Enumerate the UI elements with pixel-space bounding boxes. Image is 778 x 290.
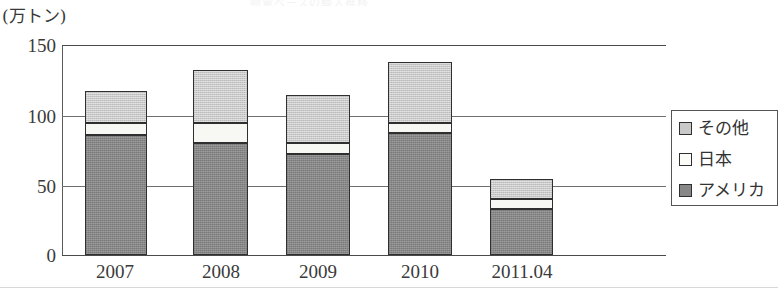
faint-title-strip: 物量ベースの輸入推移	[250, 0, 510, 6]
legend-label-america: アメリカ	[698, 181, 765, 199]
bar-segment-other-2010[interactable]	[388, 62, 452, 123]
bar-segment-other-2011-04[interactable]	[490, 179, 553, 199]
bar-segment-japan-2010[interactable]	[388, 123, 452, 133]
bar-segment-japan-2009[interactable]	[286, 143, 350, 154]
legend-label-japan: 日本	[698, 150, 732, 168]
bar-segment-america-2010[interactable]	[388, 133, 452, 255]
legend-swatch-japan-icon	[679, 153, 692, 166]
gridline-100	[62, 116, 666, 117]
gridline-50	[62, 186, 666, 187]
legend-swatch-other-icon	[679, 122, 692, 135]
x-tick-label-2007: 2007	[55, 261, 175, 283]
bar-segment-other-2007[interactable]	[85, 91, 147, 123]
legend-label-other: その他	[698, 119, 749, 137]
bar-segment-other-2009[interactable]	[286, 95, 350, 143]
bar-segment-japan-2011-04[interactable]	[490, 199, 553, 209]
bar-segment-other-2008[interactable]	[193, 70, 248, 123]
y-tick-label-150: 150	[0, 36, 56, 55]
y-axis-unit-label: (万トン)	[2, 6, 66, 26]
y-tick-label-0: 0	[0, 246, 56, 265]
axis-baseline-0	[62, 255, 666, 256]
y-tick-label-100: 100	[0, 107, 56, 126]
bar-segment-america-2008[interactable]	[193, 143, 248, 255]
bar-2011-04[interactable]	[490, 179, 553, 255]
gridline-150	[62, 45, 666, 46]
bar-segment-america-2011-04[interactable]	[490, 209, 553, 255]
legend-item-japan[interactable]: 日本	[679, 148, 732, 170]
legend: その他 日本 アメリカ	[671, 110, 778, 206]
y-tick-label-50: 50	[0, 177, 56, 196]
x-tick-label-2011-04: 2011.04	[462, 261, 582, 283]
page-bottom-rule	[0, 287, 778, 288]
bar-segment-japan-2008[interactable]	[193, 123, 248, 143]
bar-2009[interactable]	[286, 95, 350, 255]
bar-segment-america-2009[interactable]	[286, 154, 350, 255]
bar-2007[interactable]	[85, 91, 147, 255]
y-axis-spine	[62, 45, 63, 255]
legend-item-america[interactable]: アメリカ	[679, 179, 765, 201]
legend-swatch-america-icon	[679, 184, 692, 197]
plot-area	[62, 45, 666, 255]
bar-segment-japan-2007[interactable]	[85, 123, 147, 135]
bar-2008[interactable]	[193, 70, 248, 255]
bar-segment-america-2007[interactable]	[85, 135, 147, 255]
bar-2010[interactable]	[388, 62, 452, 255]
legend-item-other[interactable]: その他	[679, 117, 749, 139]
